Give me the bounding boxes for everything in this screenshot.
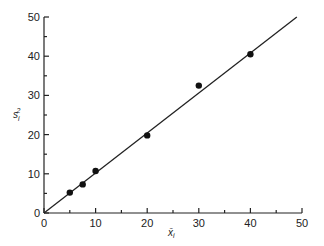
x-tick-label: 10 (89, 217, 101, 229)
data-point (67, 189, 73, 195)
y-tick-label: 0 (34, 207, 40, 219)
data-point (144, 132, 150, 138)
y-axis-label: si2 (13, 107, 21, 122)
data-point (80, 181, 86, 187)
x-axis-label: x̄i (167, 227, 175, 239)
x-tick-label: 40 (244, 217, 256, 229)
y-tick-label: 50 (28, 11, 40, 23)
x-tick-label: 30 (193, 217, 205, 229)
tick-labels: 0102030405001020304050 (28, 11, 308, 229)
y-tick-label: 20 (28, 129, 40, 141)
data-point (92, 168, 98, 174)
x-tick-label: 50 (296, 217, 308, 229)
y-tick-label: 30 (28, 89, 40, 101)
data-point (247, 51, 253, 57)
scatter-chart: 0102030405001020304050 x̄i si2 (0, 0, 324, 246)
data-point (196, 82, 202, 88)
x-tick-label: 20 (141, 217, 153, 229)
y-tick-label: 40 (28, 50, 40, 62)
y-tick-label: 10 (28, 168, 40, 180)
x-tick-label: 0 (41, 217, 47, 229)
